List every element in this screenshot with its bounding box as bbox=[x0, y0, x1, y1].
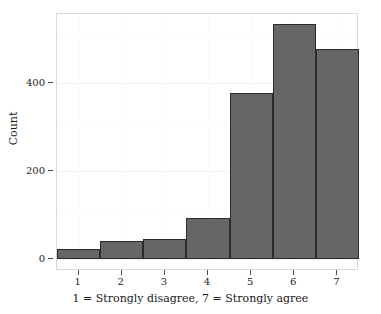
x-axis-title: 1 = Strongly disagree, 7 = Strongly agre… bbox=[0, 292, 381, 305]
y-axis-title: Count bbox=[7, 94, 20, 164]
y-tick-label-400: 400 bbox=[26, 77, 45, 88]
bar-5 bbox=[230, 93, 273, 259]
y-axis: Count 0200400 bbox=[0, 0, 56, 314]
y-tick-label-0: 0 bbox=[39, 253, 45, 264]
y-tick-mark-200 bbox=[48, 170, 53, 171]
x-tick-label-6: 6 bbox=[290, 276, 296, 287]
x-tick-label-2: 2 bbox=[118, 276, 124, 287]
y-tick-label-200: 200 bbox=[26, 165, 45, 176]
y-tick-mark-0 bbox=[48, 258, 53, 259]
bar-4 bbox=[186, 218, 229, 259]
x-tick-mark-5 bbox=[250, 270, 251, 275]
x-tick-mark-1 bbox=[78, 270, 79, 275]
histogram-chart: Count 0200400 1 = Strongly disagree, 7 =… bbox=[0, 0, 381, 314]
x-tick-label-4: 4 bbox=[204, 276, 210, 287]
x-tick-mark-2 bbox=[121, 270, 122, 275]
x-tick-label-1: 1 bbox=[74, 276, 80, 287]
x-axis: 1 = Strongly disagree, 7 = Strongly agre… bbox=[0, 270, 381, 314]
x-tick-label-3: 3 bbox=[161, 276, 167, 287]
x-tick-mark-7 bbox=[336, 270, 337, 275]
bar-2 bbox=[100, 241, 143, 259]
bar-3 bbox=[143, 239, 186, 259]
x-tick-mark-6 bbox=[293, 270, 294, 275]
x-tick-label-5: 5 bbox=[247, 276, 253, 287]
x-tick-label-7: 7 bbox=[333, 276, 339, 287]
x-tick-mark-4 bbox=[207, 270, 208, 275]
plot-panel bbox=[56, 13, 358, 270]
bar-1 bbox=[57, 249, 100, 259]
x-tick-mark-3 bbox=[164, 270, 165, 275]
bar-6 bbox=[273, 24, 316, 259]
bar-7 bbox=[316, 49, 359, 259]
bar-series bbox=[57, 14, 357, 269]
y-tick-mark-400 bbox=[48, 82, 53, 83]
